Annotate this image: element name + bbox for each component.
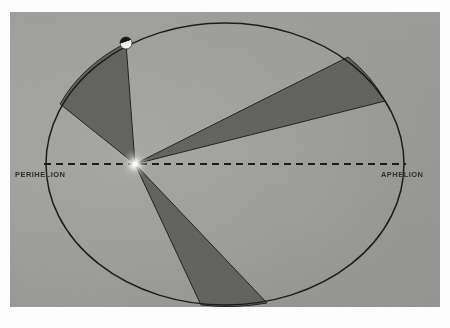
aphelion-label: APHELION bbox=[381, 170, 423, 179]
sector-upper-right bbox=[135, 57, 385, 164]
sector-lower bbox=[135, 164, 267, 307]
orbit-figure: PERIHELION APHELION bbox=[0, 0, 450, 328]
planet-marker bbox=[120, 37, 132, 49]
orbit-diagram bbox=[0, 0, 450, 328]
swept-sector-group bbox=[60, 43, 385, 307]
perihelion-label: PERIHELION bbox=[15, 170, 65, 179]
sector-upper-left bbox=[60, 43, 135, 164]
sun-focus-point bbox=[132, 161, 137, 166]
